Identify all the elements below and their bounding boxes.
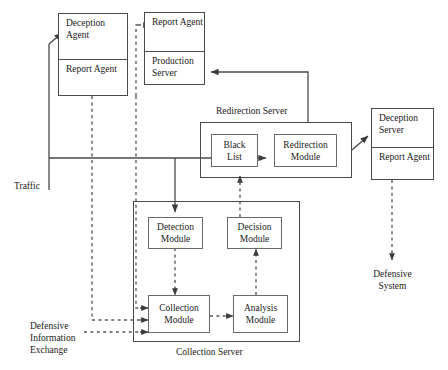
detection-module-node[interactable]: Detection Module: [148, 217, 203, 249]
defensive-information-exchange-label: Defensive Information Exchange: [30, 320, 75, 356]
production-server-host[interactable]: Report Agent Production Server: [144, 12, 205, 85]
deception-agent-host[interactable]: Deception Agent Report Agent: [58, 13, 128, 96]
deception-server-label: Deception Server: [372, 109, 433, 147]
analysis-module-node[interactable]: Analysis Module: [233, 295, 288, 333]
report-agent-label-left: Report Agent: [59, 59, 127, 97]
deception-agent-label: Deception Agent: [59, 14, 127, 59]
collection-server-caption: Collection Server: [176, 346, 243, 358]
traffic-label: Traffic: [14, 180, 40, 192]
diagram-canvas: Deception Agent Report Agent Report Agen…: [0, 0, 448, 370]
black-list-node[interactable]: Black List: [211, 134, 258, 167]
collection-module-node[interactable]: Collection Module: [148, 295, 210, 333]
production-server-label: Production Server: [145, 51, 204, 86]
deception-server-host[interactable]: Deception Server Report Agent: [371, 108, 434, 180]
decision-module-node[interactable]: Decision Module: [227, 217, 282, 249]
redirection-module-node[interactable]: Redirection Module: [274, 134, 337, 167]
deception-agent-to-report-agent-dash: [136, 25, 138, 96]
report-agent-label-production: Report Agent: [145, 13, 204, 51]
redirection-server-caption: Redirection Server: [216, 105, 288, 117]
defensive-system-label: Defensive System: [365, 268, 420, 292]
redirection-to-deception-server-arrow: [352, 136, 368, 150]
report-agent-label-deception-server: Report Agent: [372, 147, 433, 181]
